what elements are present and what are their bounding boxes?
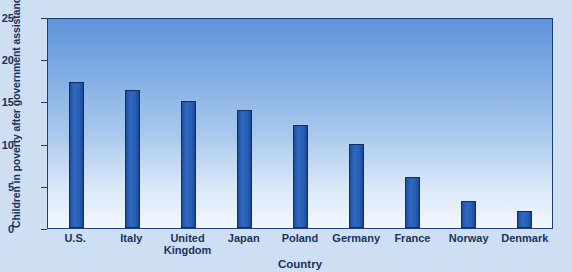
y-tick-label: 20 [0,54,14,66]
x-tick-label-line: Kingdom [159,244,215,256]
x-tick-label-line: France [384,232,440,244]
y-tick-label: 5 [0,181,14,193]
x-axis-tick-labels: U.S.ItalyUnitedKingdomJapanPolandGermany… [47,232,553,256]
x-tick-label: UnitedKingdom [159,232,215,256]
x-tick-label: U.S. [47,232,103,256]
y-tick-mark [41,229,47,230]
bar-series [48,19,552,228]
bar-norway [461,201,476,228]
y-axis-title: Children in poverty after government ass… [10,8,22,228]
x-tick-label-line: Denmark [497,232,553,244]
plot-area [47,18,553,229]
bar-u-s [69,82,84,228]
bar-slot [440,19,496,228]
bar-denmark [517,211,532,228]
x-tick-label-line: Germany [328,232,384,244]
bar-slot [160,19,216,228]
x-tick-label: Japan [216,232,272,256]
bar-germany [349,144,364,228]
bar-france [405,177,420,228]
bar-italy [125,90,140,228]
bar-slot [384,19,440,228]
bar-japan [237,110,252,228]
x-tick-label: Denmark [497,232,553,256]
bar-slot [104,19,160,228]
bar-chart: Children in poverty after government ass… [0,0,572,272]
x-tick-label-line: U.S. [47,232,103,244]
x-tick-label-line: Japan [216,232,272,244]
bar-slot [496,19,552,228]
bar-slot [328,19,384,228]
x-tick-label-line: Italy [103,232,159,244]
y-tick-label: 15 [0,96,14,108]
x-tick-label: Italy [103,232,159,256]
bar-slot [272,19,328,228]
x-tick-label: Germany [328,232,384,256]
y-tick-label: 10 [0,139,14,151]
x-tick-label: France [384,232,440,256]
x-tick-label-line: Norway [441,232,497,244]
x-axis-title: Country [47,258,553,270]
bar-poland [293,125,308,228]
bar-slot [48,19,104,228]
x-tick-label: Poland [272,232,328,256]
bar-slot [216,19,272,228]
y-tick-label: 25 [0,12,14,24]
y-tick-label: 0 [0,223,14,235]
x-tick-label-line: Poland [272,232,328,244]
x-tick-label: Norway [441,232,497,256]
x-tick-label-line: United [159,232,215,244]
bar-united-kingdom [181,101,196,228]
